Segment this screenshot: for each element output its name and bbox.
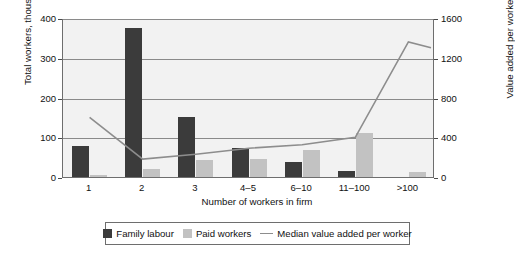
y-axis-right-title: Value added per worker, US$: [504, 0, 515, 116]
gridline: [63, 19, 433, 20]
y-axis-right-tick-label: 1200: [441, 54, 475, 64]
bar-paid-workers: [409, 172, 426, 177]
x-axis-title: Number of workers in firm: [0, 196, 514, 207]
legend-label: Median value added per worker: [277, 228, 411, 239]
y-axis-left-tick-label: 0: [22, 173, 56, 183]
y-axis-right-tick-label: 1600: [441, 14, 475, 24]
bar-family-labour: [125, 28, 142, 177]
x-axis-tick-label: 1: [59, 182, 119, 193]
legend-item-paid-workers: Paid workers: [183, 228, 251, 239]
y-axis-right-tickmark: [434, 178, 438, 179]
line-swatch-icon: [260, 233, 273, 234]
bar-family-labour: [232, 148, 249, 177]
x-axis-tick-label: >100: [377, 182, 437, 193]
gridline: [63, 59, 433, 60]
gridline: [63, 138, 433, 139]
square-swatch-light-icon: [183, 229, 192, 238]
legend-item-median-value: Median value added per worker: [260, 228, 411, 239]
legend-item-family-labour: Family labour: [103, 228, 174, 239]
legend-label: Family labour: [116, 228, 174, 239]
bar-paid-workers: [356, 133, 373, 177]
y-axis-left-tickmark: [58, 178, 62, 179]
y-axis-right-tick-label: 400: [441, 133, 475, 143]
y-axis-left-tick-label: 200: [22, 94, 56, 104]
x-axis-tick-label: 6–10: [271, 182, 331, 193]
bar-family-labour: [178, 117, 195, 177]
bar-paid-workers: [303, 150, 320, 177]
y-axis-left-tick-label: 400: [22, 14, 56, 24]
y-axis-right-tickmark: [434, 59, 438, 60]
square-swatch-dark-icon: [103, 229, 112, 238]
median-value-line: [63, 20, 435, 179]
bar-family-labour: [285, 162, 302, 177]
y-axis-right-tickmark: [434, 99, 438, 100]
y-axis-left-tick-label: 300: [22, 54, 56, 64]
x-axis-tick-label: 3: [165, 182, 225, 193]
bar-family-labour: [338, 171, 355, 177]
bar-paid-workers: [143, 169, 160, 177]
plot-area: [62, 19, 434, 178]
bar-paid-workers: [250, 159, 267, 177]
chart-legend: Family labour Paid workers Median value …: [105, 222, 410, 245]
bar-family-labour: [72, 146, 89, 177]
x-axis-tick-label: 11–100: [324, 182, 384, 193]
y-axis-right-tickmark: [434, 138, 438, 139]
bar-paid-workers: [90, 175, 107, 177]
legend-label: Paid workers: [196, 228, 251, 239]
y-axis-right-tickmark: [434, 19, 438, 20]
x-axis-tick-label: 2: [112, 182, 172, 193]
y-axis-left-tick-label: 100: [22, 133, 56, 143]
x-axis-tick-label: 4–5: [218, 182, 278, 193]
y-axis-right-tick-label: 0: [441, 173, 475, 183]
bar-paid-workers: [196, 160, 213, 177]
y-axis-right-tick-label: 800: [441, 94, 475, 104]
gridline: [63, 99, 433, 100]
